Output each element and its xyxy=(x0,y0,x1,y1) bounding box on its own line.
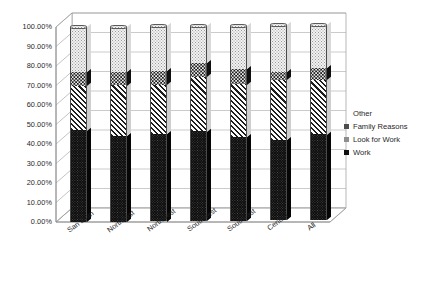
legend-item-other: Other xyxy=(344,107,439,120)
legend-swatch-work-icon xyxy=(344,150,349,155)
legend-swatch-other-icon xyxy=(344,111,349,116)
chart-container: 0.00% 10.00% 20.00% 30.00% 40.00% 50.00%… xyxy=(0,0,441,282)
legend-label: Other xyxy=(353,109,372,118)
x-tick-label: Southeast xyxy=(226,207,257,233)
legend-item-work: Work xyxy=(344,146,439,159)
legend-item-family-reasons: Family Reasons xyxy=(344,120,439,133)
legend-swatch-look-for-work-icon xyxy=(344,137,349,142)
x-tick-label: Northwest xyxy=(146,208,177,234)
legend-label: Family Reasons xyxy=(353,122,407,131)
legend-label: Look for Work xyxy=(353,135,400,144)
x-tick-label: Southwest xyxy=(186,207,218,234)
x-tick-label: All xyxy=(306,221,317,232)
x-tick-label: Central xyxy=(266,212,290,233)
legend-item-look-for-work: Look for Work xyxy=(344,133,439,146)
legend-swatch-family-reasons-icon xyxy=(344,124,349,129)
chart-legend: Other Family Reasons Look for Work Work xyxy=(344,107,439,159)
legend-label: Work xyxy=(353,148,371,157)
x-tick-label: San Juan xyxy=(66,209,95,234)
x-tick-label: Northeast xyxy=(106,209,136,234)
